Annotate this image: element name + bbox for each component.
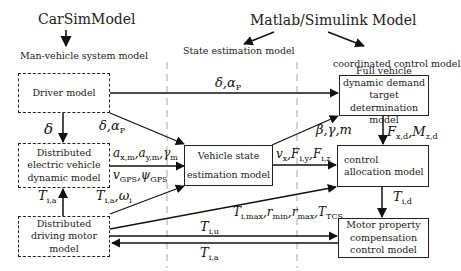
driving-motor-model-box: Distributed driving motor model bbox=[18, 216, 110, 257]
driver-model-label: Driver model bbox=[32, 87, 95, 99]
matlab-simulink-header: Matlab/Simulink Model bbox=[250, 13, 417, 27]
motor-compensation-box: Motor property compensation control mode… bbox=[338, 218, 429, 258]
signal-driver-to-full: δ,αP bbox=[215, 76, 241, 92]
state-estimation-label-2: estimation model bbox=[187, 169, 270, 181]
full-vehicle-demand-label: Full vehicle dynamic demand target deter… bbox=[342, 65, 426, 127]
signal-vd-to-se-2: vGPS,ψGPS bbox=[113, 169, 168, 184]
motor-compensation-label: Motor property compensation control mode… bbox=[345, 219, 422, 256]
state-estimation-label-1: Vehicle state bbox=[198, 150, 260, 162]
signal-full-to-ca: Fx,d,Mz,d bbox=[387, 125, 438, 141]
driver-model-box: Driver model bbox=[18, 73, 110, 113]
signal-motor-to-se: Ti,a,ωi bbox=[96, 189, 132, 205]
carsim-model-header: CarSimModel bbox=[38, 12, 136, 26]
signal-motor-to-ca: Ti,max,rmin,rmax,TTCS bbox=[233, 206, 343, 221]
vehicle-dynamic-model-label: Distributed electric vehicle dynamic mod… bbox=[21, 147, 107, 184]
signal-mc-to-motor: Ti,a bbox=[200, 246, 219, 262]
driving-motor-model-label: Distributed driving motor model bbox=[23, 218, 105, 255]
vehicle-dynamic-model-box: Distributed electric vehicle dynamic mod… bbox=[18, 143, 110, 188]
signal-driver-to-se: δ,αP bbox=[99, 119, 125, 135]
signal-se-to-full: β,γ,m bbox=[316, 123, 352, 136]
control-allocation-label-1: control bbox=[344, 154, 378, 166]
control-allocation-label-2: allocation model bbox=[344, 166, 424, 178]
state-estimation-box: Vehicle state estimation model bbox=[184, 145, 273, 186]
signal-motor-to-vd: Ti,a bbox=[38, 189, 57, 205]
signal-driver-to-vd: δ bbox=[44, 122, 53, 137]
signal-vd-to-se-1: ax,m,ay,m,γm bbox=[113, 147, 178, 162]
signal-motor-to-mc: Ti,u bbox=[200, 220, 219, 236]
column-header-man-vehicle: Man-vehicle system model bbox=[20, 51, 148, 61]
column-header-state-estimation: State estimation model bbox=[183, 46, 295, 56]
control-allocation-box: control allocation model bbox=[337, 145, 429, 187]
full-vehicle-demand-box: Full vehicle dynamic demand target deter… bbox=[339, 75, 429, 116]
signal-se-to-ca: vx,Fi,y,Fi,z bbox=[276, 148, 331, 163]
signal-ca-to-mc: Ti,d bbox=[393, 190, 412, 206]
